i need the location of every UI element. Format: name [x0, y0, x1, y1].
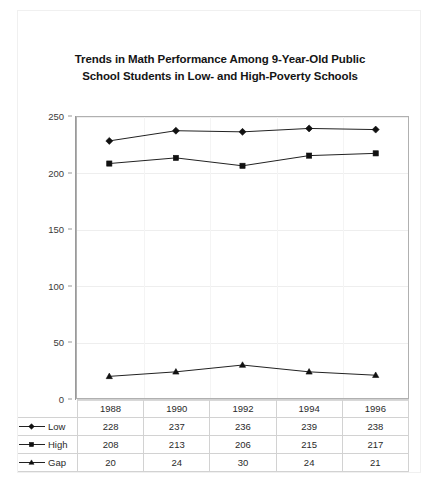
data-point-gap-1992: [239, 362, 245, 368]
table-cell-gap-1988: 20: [78, 454, 144, 472]
table-cell-high-1996: 217: [342, 436, 408, 454]
table-cell-gap-1996: 21: [342, 454, 408, 472]
legend-item-low: Low: [18, 418, 78, 436]
y-tick-label-100: 100: [48, 280, 64, 291]
table-cell-high-1994: 215: [276, 436, 342, 454]
y-tick-mark-150: [68, 229, 72, 230]
data-point-low-1996: [372, 126, 379, 133]
series-gap: [106, 362, 379, 379]
table-row: High208213206215217: [18, 436, 409, 454]
chart-title-line-1: Trends in Math Performance Among 9-Year-…: [18, 51, 422, 68]
y-tick-label-150: 150: [48, 224, 64, 235]
legend-item-high: High: [18, 436, 78, 454]
legend-label-gap: Gap: [48, 457, 66, 468]
data-point-low-1990: [172, 127, 179, 134]
y-tick-mark-250: [68, 116, 72, 117]
table-cell-low-1988: 228: [78, 418, 144, 436]
legend-square-icon: [19, 440, 45, 450]
y-tick-mark-100: [68, 285, 72, 286]
table-body: Low228237236239238High208213206215217Gap…: [18, 418, 409, 472]
table-cell-high-1990: 213: [144, 436, 210, 454]
legend-triangle-icon: [19, 458, 45, 468]
table-cell-low-1990: 237: [144, 418, 210, 436]
table-header-1990: 1990: [144, 400, 210, 418]
table-header-1996: 1996: [342, 400, 408, 418]
legend-diamond-icon: [19, 422, 45, 432]
series-low: [106, 125, 379, 144]
table-header-1992: 1992: [210, 400, 276, 418]
y-tick-label-200: 200: [48, 167, 64, 178]
table-cell-gap-1992: 30: [210, 454, 276, 472]
table-header-1994: 1994: [276, 400, 342, 418]
table-cell-low-1996: 238: [342, 418, 408, 436]
data-point-high-1988: [107, 161, 112, 166]
data-point-low-1992: [239, 128, 246, 135]
legend-header-spacer: [18, 400, 78, 418]
table-cell-high-1988: 208: [78, 436, 144, 454]
y-tick-label-250: 250: [48, 111, 64, 122]
y-tick-mark-200: [68, 172, 72, 173]
table-cell-high-1992: 206: [210, 436, 276, 454]
data-point-low-1994: [306, 125, 313, 132]
chart-title-line-2: School Students in Low- and High-Poverty…: [18, 68, 422, 85]
series-high: [107, 151, 379, 169]
data-table: 19881990199219941996 Low228237236239238H…: [18, 399, 409, 472]
table-cell-low-1992: 236: [210, 418, 276, 436]
table-cell-gap-1994: 24: [276, 454, 342, 472]
data-point-high-1990: [173, 155, 178, 160]
series-layer: [76, 116, 409, 399]
y-axis: 050100150200250: [18, 116, 72, 399]
data-point-high-1994: [307, 153, 312, 158]
legend-label-high: High: [48, 439, 68, 450]
table-header-row: 19881990199219941996: [18, 400, 409, 418]
legend-label-low: Low: [48, 421, 65, 432]
data-point-low-1988: [106, 137, 113, 144]
table-row: Gap2024302421: [18, 454, 409, 472]
table-cell-gap-1990: 24: [144, 454, 210, 472]
chart-title: Trends in Math Performance Among 9-Year-…: [18, 51, 422, 85]
legend-item-gap: Gap: [18, 454, 78, 472]
table-header-1988: 1988: [78, 400, 144, 418]
chart-figure: Trends in Math Performance Among 9-Year-…: [17, 10, 421, 473]
y-tick-label-50: 50: [53, 337, 64, 348]
table-cell-low-1994: 239: [276, 418, 342, 436]
data-point-high-1996: [373, 151, 378, 156]
y-tick-mark-50: [68, 342, 72, 343]
table-row: Low228237236239238: [18, 418, 409, 436]
data-point-high-1992: [240, 163, 245, 168]
